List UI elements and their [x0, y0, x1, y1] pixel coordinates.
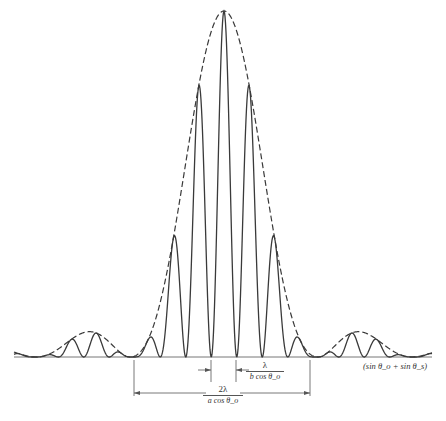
- fringe-spacing-label: λ b cos θ_o: [246, 361, 284, 381]
- fringe-spacing-marker: [198, 360, 249, 382]
- fringe-spacing-numerator: λ: [246, 361, 284, 371]
- fringe-spacing-denominator: b cos θ_o: [246, 371, 284, 381]
- envelope-width-numerator: 2λ: [203, 385, 243, 395]
- envelope-width-label: 2λ a cos θ_o: [203, 385, 243, 405]
- x-axis-label: (sin θ_o + sin θ_s): [363, 362, 427, 371]
- envelope-width-denominator: a cos θ_o: [203, 395, 243, 405]
- diffraction-envelope-dashed: [14, 11, 432, 357]
- interference-fringes-solid: [14, 11, 432, 357]
- diffraction-diagram: [0, 0, 446, 421]
